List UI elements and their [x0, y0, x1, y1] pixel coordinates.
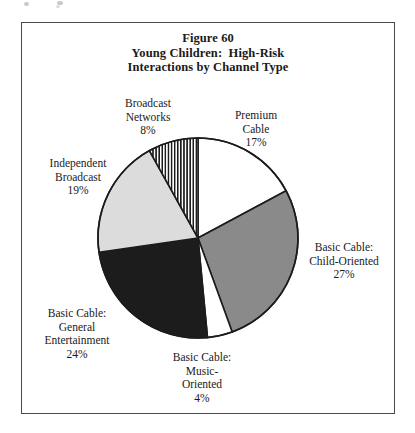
scan-artifact — [24, 2, 29, 6]
label-value: 8% — [100, 124, 196, 138]
slice-label-basic-cable-music-oriented: Basic Cable: Music- Oriented 4% — [146, 351, 258, 405]
slice-label-independent-broadcast: Independent Broadcast 19% — [24, 157, 132, 198]
scan-artifact — [56, 5, 60, 8]
label-text: Basic Cable: — [288, 241, 400, 255]
label-text: Entertainment — [20, 334, 134, 348]
label-text: Basic Cable: — [20, 307, 134, 321]
label-text: Premium — [208, 109, 304, 123]
label-value: 19% — [24, 184, 132, 198]
label-text: Child-Oriented — [288, 255, 400, 269]
label-text: Cable — [208, 123, 304, 137]
label-value: 24% — [20, 348, 134, 362]
label-text: General — [20, 321, 134, 335]
label-text: Broadcast — [100, 97, 196, 111]
label-text: Broadcast — [24, 171, 132, 185]
pie-chart: Broadcast Networks 8% Premium Cable 17% … — [22, 23, 396, 415]
label-text: Independent — [24, 157, 132, 171]
figure-frame: Figure 60 Young Children: High-Risk Inte… — [21, 22, 395, 414]
label-value: 4% — [146, 392, 258, 406]
slice-label-basic-cable-child-oriented: Basic Cable: Child-Oriented 27% — [288, 241, 400, 282]
label-text: Music- — [146, 365, 258, 379]
label-value: 27% — [288, 268, 400, 282]
slice-label-premium-cable: Premium Cable 17% — [208, 109, 304, 150]
label-value: 17% — [208, 136, 304, 150]
slice-label-basic-cable-general-entertainment: Basic Cable: General Entertainment 24% — [20, 307, 134, 361]
slice-label-broadcast-networks: Broadcast Networks 8% — [100, 97, 196, 138]
label-text: Oriented — [146, 378, 258, 392]
label-text: Basic Cable: — [146, 351, 258, 365]
label-text: Networks — [100, 111, 196, 125]
